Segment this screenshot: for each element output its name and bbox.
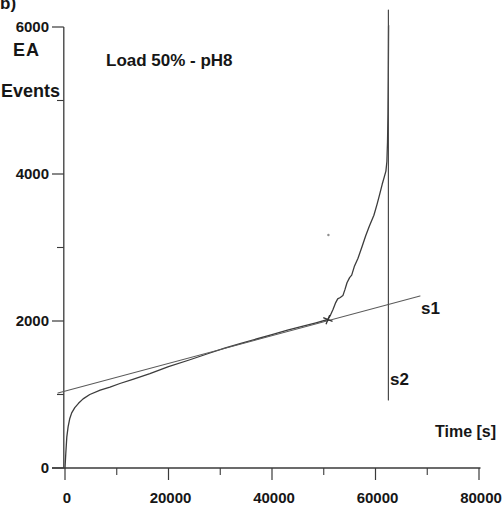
scan-speck [327, 234, 329, 236]
y-axis-title-line2: Events [1, 82, 60, 100]
s1-line-label: s1 [421, 300, 440, 317]
y-tick-label: 6000 [16, 18, 49, 35]
y-tick-label: 0 [41, 459, 49, 476]
x-tick-label: 0 [63, 489, 71, 506]
x-tick-label: 80000 [460, 489, 502, 506]
axis-tick-labels: 0200040006000020000400006000080000 [16, 18, 502, 506]
ea-cumulative-events-curve [65, 26, 389, 469]
x-tick-label: 20000 [150, 489, 192, 506]
s1-regression-line [58, 296, 420, 393]
x-axis-title: Time [s] [435, 424, 496, 440]
chart-canvas: 0200040006000020000400006000080000 [0, 0, 503, 519]
x-tick-label: 60000 [357, 489, 399, 506]
y-axis-title-line1: EA [13, 41, 40, 59]
s2-line-label: s2 [390, 371, 409, 388]
chart-figure: 0200040006000020000400006000080000 b) EA… [0, 0, 503, 519]
y-tick-label: 4000 [16, 165, 49, 182]
speck-dot [327, 234, 329, 236]
chart-annotation: Load 50% - pH8 [106, 52, 233, 69]
y-tick-label: 2000 [16, 312, 49, 329]
panel-label: b) [0, 0, 16, 12]
x-tick-label: 40000 [253, 489, 295, 506]
axes [52, 27, 481, 468]
data-series [58, 10, 420, 468]
axis-ticks [52, 27, 479, 480]
